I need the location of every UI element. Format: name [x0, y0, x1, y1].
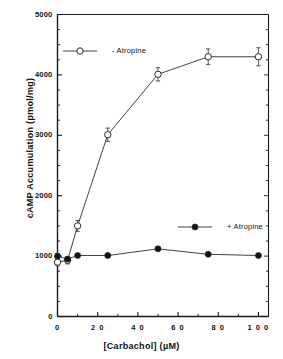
series-line-0: [58, 57, 259, 262]
data-point-open: [54, 259, 60, 265]
data-point-filled: [75, 253, 81, 259]
data-point-filled: [65, 256, 71, 262]
legend-marker-filled: [192, 224, 198, 230]
x-tick-label: 6 0: [163, 323, 193, 332]
x-tick-label: 2 0: [83, 323, 113, 332]
data-point-filled: [255, 253, 261, 259]
x-tick-label: 0: [43, 323, 73, 332]
data-point-open: [255, 54, 261, 60]
data-point-open: [155, 71, 161, 77]
y-tick-label: 3000: [19, 130, 53, 139]
y-tick-label: 1000: [19, 251, 53, 260]
x-tick-label: 1 0 0: [243, 323, 273, 332]
data-point-filled: [55, 253, 61, 259]
legend-marker-open: [77, 48, 83, 54]
data-point-filled: [105, 253, 111, 259]
y-tick-label: 5000: [19, 10, 53, 19]
data-point-filled: [205, 251, 211, 257]
data-point-filled: [155, 246, 161, 252]
data-point-open: [205, 54, 211, 60]
x-tick-label: 4 0: [123, 323, 153, 332]
y-tick-label: 2000: [19, 191, 53, 200]
data-point-open: [74, 223, 80, 229]
data-point-open: [105, 132, 111, 138]
legend-label-0: - Atropine: [112, 46, 146, 55]
legend-label-1: + Atropine: [227, 222, 263, 231]
y-tick-label: 4000: [19, 70, 53, 79]
y-tick-label: 0: [19, 312, 53, 321]
chart-figure: cAMP Accumulation (pmol/mg) [Carbachol] …: [0, 0, 283, 359]
x-tick-label: 8 0: [203, 323, 233, 332]
